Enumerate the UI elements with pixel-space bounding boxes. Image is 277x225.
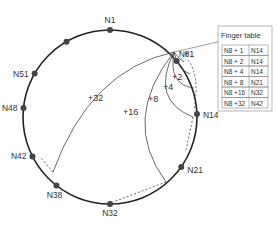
finger-table-start: N8 + 2 xyxy=(224,58,244,65)
node-dot xyxy=(20,105,26,111)
node-label: N21 xyxy=(187,165,203,175)
node-dot xyxy=(178,164,184,170)
finger-table-start: N8 +16 xyxy=(224,89,246,96)
finger-table-successor: N21 xyxy=(251,79,263,86)
finger-label: +1 xyxy=(184,49,194,59)
finger-table-successor: N14 xyxy=(251,58,263,65)
node-label: N48 xyxy=(2,103,18,113)
finger-table-start: N8 +32 xyxy=(224,100,246,107)
finger-label: +16 xyxy=(123,107,138,117)
node-dot xyxy=(53,183,59,189)
node-dot xyxy=(64,39,70,45)
finger-table-successor: N32 xyxy=(251,89,263,96)
node-dot xyxy=(194,111,200,117)
finger-label: +4 xyxy=(163,82,173,92)
finger-table-start: N8 + 8 xyxy=(224,79,244,86)
node-label: N32 xyxy=(102,208,118,218)
finger-table-title: Finger table xyxy=(221,31,261,40)
finger-table-successor: N42 xyxy=(251,100,263,107)
node-label: N42 xyxy=(11,151,27,161)
finger-arrow-32 xyxy=(53,52,174,172)
node-label: N38 xyxy=(47,190,63,200)
node-label: N51 xyxy=(13,69,29,79)
node-dot xyxy=(107,27,113,33)
finger-table-start: N8 + 1 xyxy=(224,47,244,54)
finger-table-successor: N14 xyxy=(251,47,263,54)
node-label: N14 xyxy=(203,110,219,120)
finger-arrow-16 xyxy=(145,52,174,182)
node-dot xyxy=(32,71,38,77)
node-dot xyxy=(107,201,113,207)
finger-label: +2 xyxy=(172,72,182,82)
chord-ring-diagram: N1N8N14N21N32N38N42N48N51 +1 +2 +4 +8 +1… xyxy=(0,0,277,225)
node-dot xyxy=(29,153,35,159)
finger-table-successor: N14 xyxy=(251,68,263,75)
finger-table-start: N8 + 4 xyxy=(224,68,244,75)
finger-label: +32 xyxy=(88,93,103,103)
dashed-4 xyxy=(41,158,53,172)
finger-label: +8 xyxy=(148,94,158,104)
dashed-1 xyxy=(188,60,196,110)
node-label: N1 xyxy=(105,15,116,25)
